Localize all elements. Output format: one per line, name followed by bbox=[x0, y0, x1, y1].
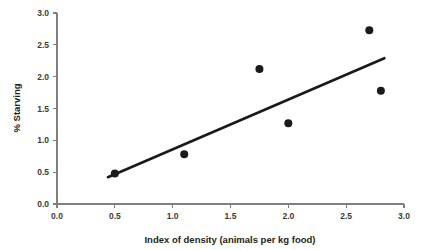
x-axis-tick-label: 2.0 bbox=[282, 211, 294, 221]
data-points-group bbox=[111, 26, 385, 177]
y-axis-tick-label: 2.0 bbox=[37, 72, 49, 82]
y-axis-tick-label: 1.0 bbox=[37, 135, 49, 145]
x-axis-tick-label: 3.0 bbox=[398, 211, 410, 221]
x-axis-tick-label: 0.0 bbox=[51, 211, 63, 221]
x-axis-tick-label: 1.0 bbox=[167, 211, 179, 221]
x-axis-tick-label: 1.5 bbox=[225, 211, 237, 221]
trend-line-group bbox=[108, 58, 384, 177]
y-axis-title: % Starving bbox=[11, 83, 22, 132]
data-point bbox=[180, 150, 188, 158]
chart-canvas: 0.00.51.01.52.02.53.0 0.00.51.01.52.02.5… bbox=[0, 0, 424, 250]
x-axis-tick-label: 0.5 bbox=[109, 211, 121, 221]
y-axis-tick-label: 2.5 bbox=[37, 40, 49, 50]
y-axis-tick-label: 0.0 bbox=[37, 199, 49, 209]
y-axis-tick-label: 3.0 bbox=[37, 8, 49, 18]
data-point bbox=[377, 87, 385, 95]
y-axis-tick-label: 1.5 bbox=[37, 104, 49, 114]
data-point bbox=[284, 119, 292, 127]
y-axis-tick-label: 0.5 bbox=[37, 167, 49, 177]
data-point bbox=[111, 169, 119, 177]
regression-trend-line bbox=[108, 58, 384, 177]
y-axis-ticks: 0.00.51.01.52.02.53.0 bbox=[37, 8, 57, 209]
data-point bbox=[365, 26, 373, 34]
data-point bbox=[255, 65, 263, 73]
x-axis-tick-label: 2.5 bbox=[340, 211, 352, 221]
x-axis-title: Index of density (animals per kg food) bbox=[144, 234, 315, 245]
scatter-plot-figure: 0.00.51.01.52.02.53.0 0.00.51.01.52.02.5… bbox=[0, 0, 424, 250]
x-axis-ticks: 0.00.51.01.52.02.53.0 bbox=[51, 204, 410, 221]
